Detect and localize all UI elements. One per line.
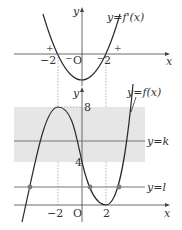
tick-label-neg2-bottom: −2 [47, 207, 63, 220]
function-graph: y y=f(x) 8 4 y=k y=l −2 O 2 x [14, 84, 171, 222]
intersection-point-1 [28, 185, 33, 190]
derivative-function-label: y=f'(x) [106, 11, 144, 24]
tick-label-2-bottom: 2 [103, 207, 110, 220]
derivative-graph: y y=f'(x) x −2 O 2 + − − + [14, 5, 173, 205]
line-k-label: y=k [146, 135, 169, 148]
y-axis-arrow-icon [80, 7, 84, 12]
intersection-point-3 [117, 185, 122, 190]
origin-label-bottom: O [73, 207, 82, 220]
y-axis-label-top: y [72, 5, 80, 18]
x-axis-label-top: x [166, 55, 173, 68]
line-l-label: y=l [146, 181, 166, 194]
sign-mark-plus-left: + [46, 43, 54, 53]
graph-figure: y y=f'(x) x −2 O 2 + − − + y [0, 0, 182, 230]
sign-mark-minus-left: − [65, 53, 73, 63]
y-tick-label-4: 4 [75, 156, 82, 169]
x-axis-label-bottom: x [164, 207, 171, 220]
tick-label-2-top: 2 [104, 54, 111, 67]
y-axis-arrow-icon [80, 87, 84, 92]
function-label: y=f(x) [126, 86, 161, 99]
intersection-point-2 [88, 185, 93, 190]
sign-mark-minus-right: − [97, 53, 105, 63]
sign-mark-plus-right: + [114, 43, 122, 53]
tick-label-neg2-top: −2 [40, 54, 56, 67]
y-tick-label-8: 8 [84, 101, 91, 114]
y-axis-label-bottom: y [72, 87, 80, 100]
origin-label-top: O [73, 54, 82, 67]
